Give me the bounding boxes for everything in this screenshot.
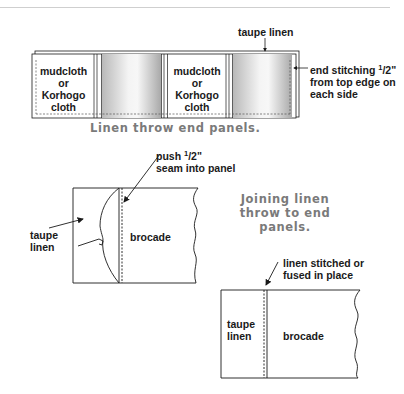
- end-stitching-label: end stitching 1/2" from top edge on each…: [310, 62, 396, 100]
- figure2-caption: Joining linen throw to end panels.: [232, 192, 338, 234]
- brocade-label-3: brocade: [283, 330, 324, 342]
- end-stitching-line3: each side: [310, 88, 396, 100]
- push-seam-label: push 1/2" seam into panel: [156, 148, 235, 174]
- panel-label-line: Korhogo: [33, 89, 94, 101]
- taupe-linen-left-label: taupe linen: [30, 229, 58, 253]
- label-line: taupe: [30, 229, 58, 241]
- panel-label-mudcloth-1: mudcloth or Korhogo cloth: [33, 65, 94, 113]
- push-seam-line2: seam into panel: [156, 162, 235, 174]
- panel-label-line: Korhogo: [167, 89, 227, 101]
- label-line: linen stitched or: [283, 257, 364, 269]
- brocade-label: brocade: [130, 231, 171, 243]
- label-line: fused in place: [283, 269, 364, 281]
- end-stitching-line2: from top edge on: [310, 76, 396, 88]
- caption-line: Joining linen: [232, 192, 338, 206]
- end-stitching-line1: end stitching 1/2": [310, 62, 396, 76]
- linen-stitched-label: linen stitched or fused in place: [283, 257, 364, 281]
- panel-label-line: cloth: [167, 101, 227, 113]
- panel-label-mudcloth-2: mudcloth or Korhogo cloth: [167, 65, 227, 113]
- caption-line: panels.: [232, 220, 338, 234]
- label-line: linen: [227, 330, 255, 342]
- taupe-linen-label: taupe linen: [238, 26, 293, 38]
- diagram-drawing: [0, 0, 404, 394]
- taupe-linen-label-3: taupe linen: [227, 318, 255, 342]
- panel-label-line: or: [33, 77, 94, 89]
- push-seam-line1: push 1/2": [156, 148, 235, 162]
- figure1-caption: Linen throw end panels.: [90, 121, 261, 135]
- label-line: linen: [30, 241, 58, 253]
- panel-label-line: mudcloth: [33, 65, 94, 77]
- panel-label-line: or: [167, 77, 227, 89]
- label-line: taupe: [227, 318, 255, 330]
- caption-line: throw to end: [232, 206, 338, 220]
- panel-label-line: mudcloth: [167, 65, 227, 77]
- panel-label-line: cloth: [33, 101, 94, 113]
